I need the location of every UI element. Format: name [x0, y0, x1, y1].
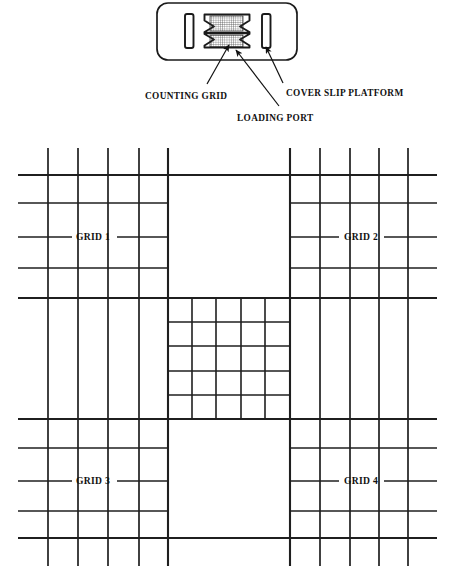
counting-grid-lower: [210, 35, 243, 47]
figure-canvas: COUNTING GRID LOADING PORT COVER SLIP PL…: [0, 0, 451, 585]
quadrant-label-grid-3: GRID 3: [76, 475, 110, 486]
counting-grid-upper: [210, 16, 243, 31]
cover-slip-platform-left-bar: [185, 14, 194, 48]
quadrant-label-grid-2: GRID 2: [344, 231, 378, 242]
hemocytometer-figure: COUNTING GRID LOADING PORT COVER SLIP PL…: [0, 0, 451, 585]
callout-label-cover-slip-platform: COVER SLIP PLATFORM: [286, 88, 404, 98]
quadrant-label-grid-1: GRID 1: [76, 231, 110, 242]
quadrant-label-grid-4: GRID 4: [344, 475, 378, 486]
callout-label-loading-port: LOADING PORT: [237, 113, 314, 123]
hemocytometer-slide: [157, 3, 297, 60]
cover-slip-platform-right-bar: [262, 14, 271, 48]
callout-label-counting-grid: COUNTING GRID: [145, 91, 227, 101]
